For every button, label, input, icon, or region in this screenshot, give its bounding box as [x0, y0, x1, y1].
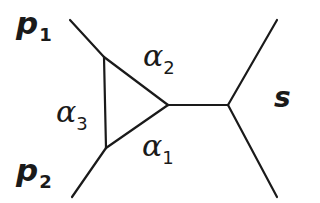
line-loop-alpha3 [104, 57, 106, 148]
label-p1-subscript: 1 [39, 24, 52, 45]
line-outgoing-lower [228, 105, 277, 197]
label-p1-base: p [16, 5, 38, 41]
label-momentum-p1: p1 [16, 8, 51, 39]
label-alpha3-subscript: 3 [76, 113, 87, 134]
feynman-diagram-figure: p1 p2 α2 α3 α1 s [0, 0, 320, 203]
label-alpha1-subscript: 1 [162, 147, 173, 168]
label-mandelstam-s: s [274, 84, 291, 112]
label-alpha1: α1 [142, 131, 174, 161]
label-alpha3-base: α [56, 94, 76, 129]
label-alpha1-base: α [142, 128, 162, 163]
label-momentum-p2: p2 [16, 155, 51, 186]
label-p2-base: p [16, 152, 38, 188]
label-alpha2-subscript: 2 [163, 57, 174, 78]
line-incoming-p1 [70, 20, 104, 57]
line-incoming-p2 [72, 148, 106, 197]
label-alpha2-base: α [143, 38, 163, 73]
label-p2-subscript: 2 [39, 171, 52, 192]
label-alpha3: α3 [56, 97, 88, 127]
label-s-base: s [274, 81, 291, 114]
line-outgoing-upper [228, 20, 277, 105]
label-alpha2: α2 [143, 41, 175, 71]
